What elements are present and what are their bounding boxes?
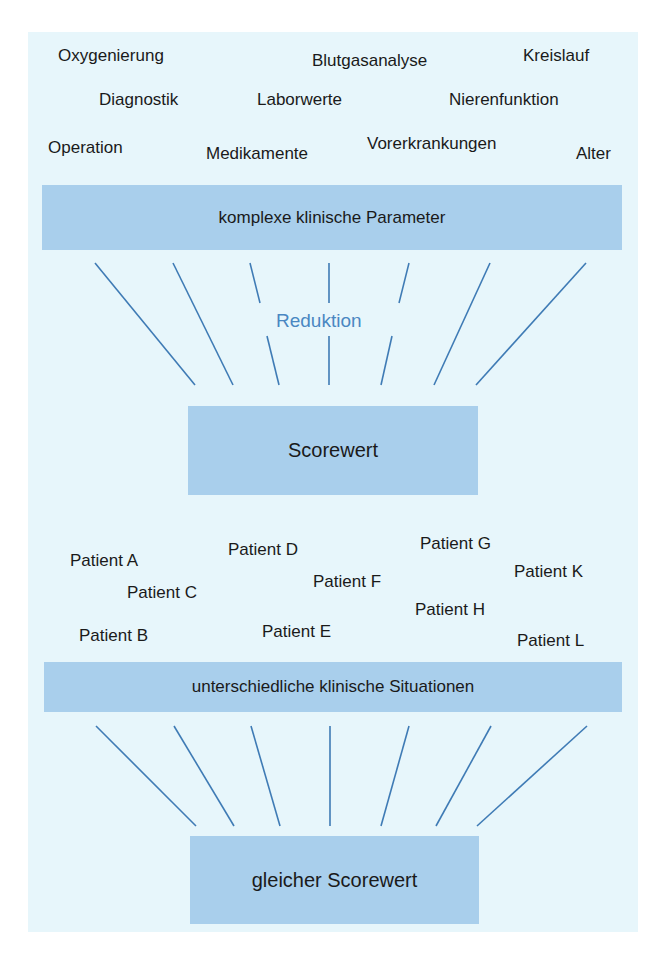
patient-label: Patient D — [228, 541, 298, 558]
parameter-label: Diagnostik — [99, 91, 178, 108]
patient-label: Patient E — [262, 623, 331, 640]
same-score-box: gleicher Scorewert — [190, 836, 479, 924]
patient-label: Patient L — [517, 632, 584, 649]
patient-label: Patient C — [127, 584, 197, 601]
patient-label: Patient K — [514, 563, 583, 580]
score-box: Scorewert — [188, 406, 478, 495]
parameter-label: Blutgasanalyse — [312, 52, 427, 69]
parameter-label: Oxygenierung — [58, 47, 164, 64]
clinical-situations-label: unterschiedliche klinische Situationen — [192, 677, 475, 697]
parameter-label: Vorerkrankungen — [367, 135, 496, 152]
patient-label: Patient B — [79, 627, 148, 644]
patient-label: Patient G — [420, 535, 491, 552]
parameter-label: Nierenfunktion — [449, 91, 559, 108]
score-label: Scorewert — [288, 439, 378, 462]
parameter-label: Medikamente — [206, 145, 308, 162]
clinical-situations-bar: unterschiedliche klinische Situationen — [44, 662, 622, 712]
parameter-label: Operation — [48, 139, 123, 156]
patient-label: Patient F — [313, 573, 381, 590]
parameter-label: Alter — [576, 145, 611, 162]
complex-parameters-label: komplexe klinische Parameter — [219, 208, 446, 228]
reduction-label: Reduktion — [276, 311, 362, 330]
same-score-label: gleicher Scorewert — [252, 869, 418, 892]
parameter-label: Laborwerte — [257, 91, 342, 108]
patient-label: Patient H — [415, 601, 485, 618]
parameter-label: Kreislauf — [523, 47, 589, 64]
complex-parameters-bar: komplexe klinische Parameter — [42, 185, 622, 250]
patient-label: Patient A — [70, 552, 138, 569]
